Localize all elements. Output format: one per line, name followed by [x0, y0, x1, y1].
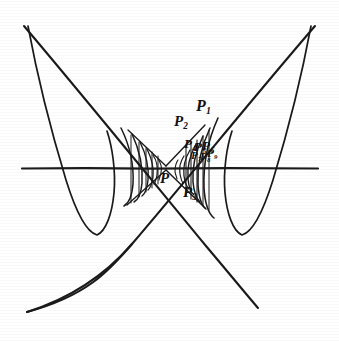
point-label-P-base: P	[160, 170, 169, 186]
outer-parabola-left	[28, 26, 115, 235]
outer-parabolas-group	[28, 26, 311, 235]
point-label-P7-base: P	[191, 149, 198, 161]
nested-curves-left-group	[121, 128, 161, 206]
point-label-P2-base: P	[174, 113, 183, 129]
point-label-P3-sub: 3	[192, 192, 197, 202]
outer-parabola-right	[224, 26, 311, 235]
point-label-P2: P2	[174, 114, 188, 131]
parabola-family-figure	[0, 0, 339, 341]
figure-container: P P1 P2 P3 P4 P5 P6 P7 P8 P9	[0, 0, 339, 341]
point-label-P1-base: P	[196, 97, 206, 114]
point-label-P8-base: P	[200, 150, 207, 162]
point-label-P1: P1	[196, 98, 211, 116]
point-label-P3: P3	[183, 185, 197, 202]
point-label-P3-base: P	[183, 184, 192, 200]
point-label-P: P	[160, 171, 169, 188]
point-label-P9-base: P	[207, 147, 214, 159]
point-label-P9-sub: 9	[214, 153, 217, 160]
asymptote-ne-sw-line-lower	[27, 244, 132, 312]
point-label-P2-sub: 2	[183, 121, 188, 131]
point-label-P1-sub: 1	[206, 105, 211, 116]
point-label-P9: P9	[207, 148, 217, 161]
